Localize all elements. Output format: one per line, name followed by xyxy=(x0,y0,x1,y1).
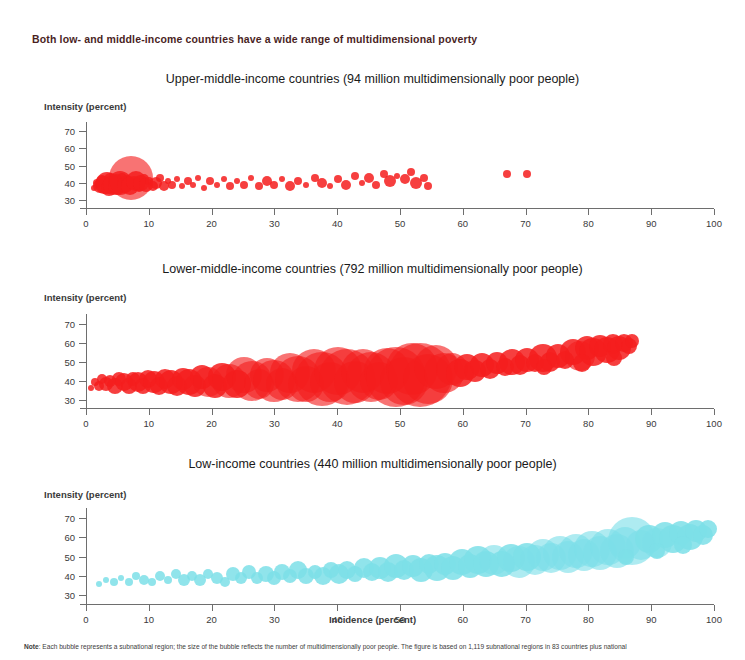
y-tick-label: 60 xyxy=(64,532,75,543)
x-tick-label: 30 xyxy=(269,418,280,429)
x-tick-label: 60 xyxy=(458,418,469,429)
x-tick xyxy=(588,605,589,611)
bubble xyxy=(248,175,254,181)
y-tick-label: 50 xyxy=(64,551,75,562)
y-tick xyxy=(79,324,86,325)
bubble xyxy=(424,182,432,190)
bubble xyxy=(327,183,333,189)
bubble xyxy=(195,175,201,181)
x-tick xyxy=(714,209,715,215)
bubble xyxy=(214,182,220,188)
bubble xyxy=(118,575,124,581)
chart-panel-3: Low-income countries (440 million multid… xyxy=(0,457,745,635)
bubble-layer-2 xyxy=(86,314,714,409)
x-tick xyxy=(588,409,589,415)
bubble xyxy=(674,536,692,554)
x-tick-label: 0 xyxy=(83,418,88,429)
x-tick xyxy=(463,605,464,611)
x-tick xyxy=(337,605,338,611)
x-tick xyxy=(714,605,715,611)
y-tick xyxy=(79,400,86,401)
x-tick xyxy=(400,605,401,611)
x-tick xyxy=(274,605,275,611)
x-tick-label: 40 xyxy=(332,218,343,229)
y-tick-label: 70 xyxy=(64,512,75,523)
y-tick-label: 50 xyxy=(64,356,75,367)
x-tick-label: 10 xyxy=(144,418,155,429)
x-tick xyxy=(588,209,589,215)
y-tick xyxy=(79,343,86,344)
plot-area-1: 30405060700102030405060708090100 xyxy=(86,122,714,209)
x-tick xyxy=(526,409,527,415)
x-tick xyxy=(337,409,338,415)
x-tick-label: 90 xyxy=(646,218,657,229)
bubble xyxy=(503,170,511,178)
x-tick xyxy=(400,209,401,215)
y-tick-label: 40 xyxy=(64,177,75,188)
y-tick-label: 30 xyxy=(64,590,75,601)
x-tick-label: 50 xyxy=(395,218,406,229)
x-tick xyxy=(400,409,401,415)
bubble xyxy=(201,185,207,191)
bubble xyxy=(699,520,717,538)
y-tick xyxy=(79,183,86,184)
y-tick xyxy=(79,166,86,167)
x-tick xyxy=(86,209,87,215)
bubble xyxy=(294,177,302,185)
x-tick-label: 20 xyxy=(206,218,217,229)
bubble xyxy=(174,176,180,182)
x-tick xyxy=(714,409,715,415)
chart-title-2: Lower-middle-income countries (792 milli… xyxy=(0,262,745,276)
bubble xyxy=(407,168,415,176)
bubble-layer-3 xyxy=(86,508,714,605)
x-tick xyxy=(212,209,213,215)
x-tick xyxy=(149,605,150,611)
bubble xyxy=(317,178,327,188)
x-tick xyxy=(651,409,652,415)
y-tick xyxy=(79,595,86,596)
note-label: Note xyxy=(24,643,39,650)
x-tick xyxy=(86,605,87,611)
y-tick-label: 40 xyxy=(64,570,75,581)
bubble xyxy=(523,170,531,178)
bubble xyxy=(190,182,196,188)
bubble xyxy=(279,176,285,182)
note-text: : Each bubble represents a subnational r… xyxy=(39,643,627,650)
x-axis-title: Incidence (percent) xyxy=(0,614,745,625)
headline-text: Both low- and middle-income countries ha… xyxy=(32,33,477,45)
y-tick-label: 50 xyxy=(64,160,75,171)
y-tick xyxy=(79,200,86,201)
x-tick xyxy=(212,409,213,415)
x-tick-label: 60 xyxy=(458,218,469,229)
bubble xyxy=(96,581,102,587)
bubble xyxy=(649,543,665,559)
x-tick xyxy=(212,605,213,611)
x-tick-label: 70 xyxy=(520,418,531,429)
x-tick xyxy=(526,605,527,611)
bubble xyxy=(179,183,185,189)
x-tick xyxy=(651,605,652,611)
bubble xyxy=(618,549,634,565)
y-tick xyxy=(79,537,86,538)
y-axis-title-3: Intensity (percent) xyxy=(44,489,126,500)
bubble xyxy=(226,182,234,190)
y-tick-label: 60 xyxy=(64,337,75,348)
bubble xyxy=(420,174,428,182)
bubble xyxy=(164,576,172,584)
x-tick-label: 100 xyxy=(706,418,722,429)
bubble xyxy=(351,172,359,180)
y-tick xyxy=(79,518,86,519)
x-tick-label: 30 xyxy=(269,218,280,229)
bubble xyxy=(573,354,591,372)
x-tick-label: 100 xyxy=(706,218,722,229)
x-tick xyxy=(526,209,527,215)
x-tick-label: 20 xyxy=(206,418,217,429)
bubble xyxy=(103,577,109,583)
y-tick-label: 30 xyxy=(64,195,75,206)
bubble xyxy=(148,578,156,586)
x-tick-label: 80 xyxy=(583,218,594,229)
y-tick xyxy=(79,148,86,149)
x-tick xyxy=(149,409,150,415)
plot-area-3: 30405060700102030405060708090100 xyxy=(86,508,714,605)
y-tick-label: 40 xyxy=(64,375,75,386)
